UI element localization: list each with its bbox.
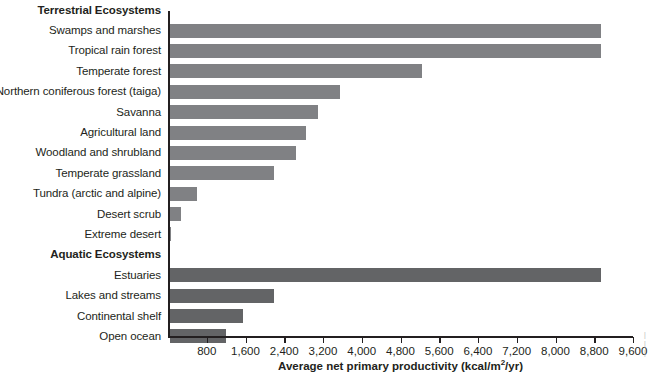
bar-slot	[170, 245, 654, 265]
category-label: Tundra (arctic and alpine)	[33, 187, 161, 200]
category-label: Tropical rain forest	[68, 44, 161, 57]
category-label: Extreme desert	[84, 228, 161, 241]
x-tick-label: 4,800	[386, 345, 415, 357]
bar-slot	[170, 285, 654, 305]
category-label-row: Temperate grassland	[0, 163, 168, 183]
x-tick-label: 7,200	[502, 345, 531, 357]
category-label: Lakes and streams	[66, 289, 161, 302]
x-tick	[517, 337, 518, 343]
x-tick-label: 8,800	[580, 345, 609, 357]
x-tick	[207, 337, 208, 343]
x-tick-label: 3,200	[309, 345, 338, 357]
category-label-row: Temperate forest	[0, 61, 168, 81]
category-label: Northern coniferous forest (taiga)	[0, 85, 161, 98]
x-tick	[594, 337, 595, 343]
x-axis-title-before: Average net primary productivity (kcal/m	[278, 360, 501, 372]
category-label-row: Woodland and shrubland	[0, 143, 168, 163]
x-tick-label: 6,400	[464, 345, 493, 357]
x-tick-label: 1,600	[231, 345, 260, 357]
x-tick-label: 800	[197, 345, 216, 357]
bar	[170, 207, 181, 221]
plot-area: 8001,6002,4003,2004,0004,8005,6006,4007,…	[168, 0, 654, 378]
category-label: Continental shelf	[77, 310, 161, 323]
x-tick	[323, 337, 324, 343]
category-label-row: Desert scrub	[0, 204, 168, 224]
bar	[170, 105, 318, 119]
bar-slot	[170, 102, 654, 122]
category-label: Temperate grassland	[56, 167, 162, 180]
category-label-row: Northern coniferous forest (taiga)	[0, 82, 168, 102]
bar-slot	[170, 143, 654, 163]
bar-slot	[170, 61, 654, 81]
category-label-row: Savanna	[0, 102, 168, 122]
x-tick-label: 8,000	[541, 345, 570, 357]
category-label-row: Continental shelf	[0, 306, 168, 326]
x-tick	[401, 337, 402, 343]
bar	[170, 64, 422, 78]
bar	[170, 44, 601, 58]
group-heading: Aquatic Ecosystems	[50, 248, 161, 261]
category-label-column: Terrestrial EcosystemsSwamps and marshes…	[0, 0, 168, 347]
category-label-row: Tropical rain forest	[0, 41, 168, 61]
bar	[170, 309, 243, 323]
category-label: Swamps and marshes	[49, 24, 161, 37]
x-axis-title-after: /yr)	[505, 360, 523, 372]
x-tick	[439, 337, 440, 343]
bar-chart: Terrestrial EcosystemsSwamps and marshes…	[0, 0, 654, 378]
bar-slot	[170, 82, 654, 102]
page-edge-marks: |||	[644, 330, 652, 357]
x-tick	[362, 337, 363, 343]
x-tick	[556, 337, 557, 343]
bar-slot	[170, 224, 654, 244]
category-label-row: Extreme desert	[0, 224, 168, 244]
bar	[170, 166, 274, 180]
x-tick-label: 2,400	[270, 345, 299, 357]
bar-slot	[170, 0, 654, 20]
bar-slot	[170, 184, 654, 204]
category-label: Temperate forest	[76, 65, 161, 78]
bar	[170, 85, 340, 99]
category-label-row: Open ocean	[0, 326, 168, 346]
bar	[170, 24, 601, 38]
category-label: Savanna	[116, 106, 161, 119]
bar	[170, 289, 274, 303]
bar-slot	[170, 306, 654, 326]
x-tick-label: 5,600	[425, 345, 454, 357]
group-heading-row: Terrestrial Ecosystems	[0, 0, 168, 20]
x-tick	[478, 337, 479, 343]
bar-slot	[170, 204, 654, 224]
x-tick	[633, 337, 634, 343]
bar	[170, 187, 197, 201]
bar-slot	[170, 265, 654, 285]
group-heading: Terrestrial Ecosystems	[37, 4, 161, 17]
bar-slot	[170, 122, 654, 142]
x-tick	[246, 337, 247, 343]
x-tick	[284, 337, 285, 343]
category-label: Desert scrub	[97, 208, 161, 221]
category-label-row: Swamps and marshes	[0, 20, 168, 40]
bar	[170, 268, 601, 282]
category-label-row: Tundra (arctic and alpine)	[0, 184, 168, 204]
category-label-row: Lakes and streams	[0, 285, 168, 305]
category-label-row: Estuaries	[0, 265, 168, 285]
bar	[170, 126, 306, 140]
category-label: Open ocean	[99, 330, 161, 343]
bar-column	[170, 0, 654, 347]
bar-slot	[170, 163, 654, 183]
category-label: Woodland and shrubland	[36, 146, 161, 159]
category-label-row: Agricultural land	[0, 122, 168, 142]
x-axis-title: Average net primary productivity (kcal/m…	[168, 360, 633, 372]
bar-slot	[170, 41, 654, 61]
category-label: Agricultural land	[80, 126, 161, 139]
bar	[170, 227, 171, 241]
x-tick-label: 4,000	[347, 345, 376, 357]
bar-slot	[170, 20, 654, 40]
bar	[170, 146, 296, 160]
category-label: Estuaries	[114, 269, 161, 282]
group-heading-row: Aquatic Ecosystems	[0, 245, 168, 265]
